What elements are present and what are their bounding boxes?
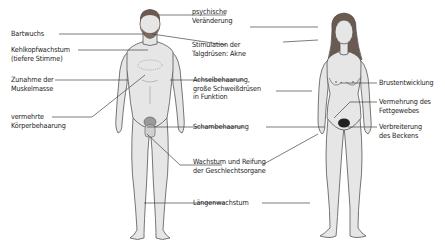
- label-koerperbehaarung: vermehrte Körperbehaarung: [11, 113, 66, 130]
- label-achselbehaarung: Achselbehaarung, große Schweißdrüsen in …: [193, 76, 261, 102]
- label-schambehaarung: Schambehaarung: [193, 123, 249, 132]
- label-talgdruesen: Stimulation der Talgdrüsen: Akne: [192, 41, 246, 58]
- label-psychische-veraenderung: psychische Veränderung: [192, 8, 233, 25]
- label-bartwuchs: Bartwuchs: [11, 30, 44, 39]
- label-brustentwicklung: Brustentwicklung: [379, 79, 434, 88]
- label-kehlkopfwachstum: Kehlkopfwachstum (tiefere Stimme): [11, 46, 70, 63]
- label-muskelmasse: Zunahme der Muskelmasse: [11, 76, 54, 93]
- label-becken: Verbreiterung des Beckens: [379, 123, 422, 140]
- label-fettgewebe: Vermehrung des Fettgewebes: [379, 98, 431, 115]
- label-geschlechtsorgane: Wachstum und Reifung der Geschlechtsorga…: [193, 158, 266, 175]
- label-laengenwachstum: Längenwachstum: [193, 199, 249, 208]
